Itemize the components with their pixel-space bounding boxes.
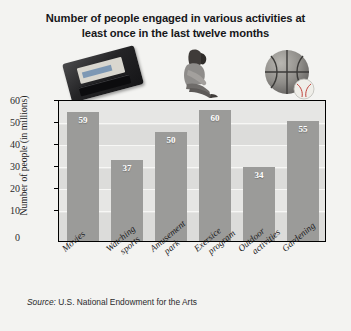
bar-value-exercise-program: 60: [199, 113, 231, 123]
bar-exercise-program[interactable]: 60: [199, 110, 231, 241]
bar-value-amusement-park: 50: [155, 135, 187, 145]
bar-value-outdoor-activities: 34: [243, 170, 275, 180]
chart-card: Number of people engaged in various acti…: [0, 0, 351, 331]
bar-gardening[interactable]: 55: [287, 121, 319, 241]
y-tick-20: 20: [0, 183, 20, 194]
source-text: U.S. National Endowment for the Arts: [58, 297, 197, 307]
bar-value-watching-sports: 37: [111, 163, 143, 173]
bar-value-gardening: 55: [287, 124, 319, 134]
y-tick-60: 60: [0, 95, 20, 106]
chart-title-line-2: least once in the last twelve months: [82, 27, 269, 39]
source-prefix: Source:: [27, 297, 56, 307]
chart-title-line-1: Number of people engaged in various acti…: [46, 12, 305, 24]
source-note: Source: U.S. National Endowment for the …: [27, 297, 197, 307]
y-tick-50: 50: [0, 117, 20, 128]
y-tick-10: 10: [0, 205, 20, 216]
chart-title: Number of people engaged in various acti…: [18, 11, 333, 40]
plot-area: 59 37 50 60 34 55: [58, 100, 326, 242]
basketball-baseball-icon: [262, 48, 318, 100]
bar-value-movies: 59: [67, 115, 99, 125]
y-tick-30: 30: [0, 161, 20, 172]
y-tick-40: 40: [0, 139, 20, 150]
bar-movies[interactable]: 59: [67, 112, 99, 241]
videotape-icon: [62, 45, 144, 103]
seated-person-icon: [170, 46, 222, 98]
y-tick-0: 0: [0, 232, 20, 243]
